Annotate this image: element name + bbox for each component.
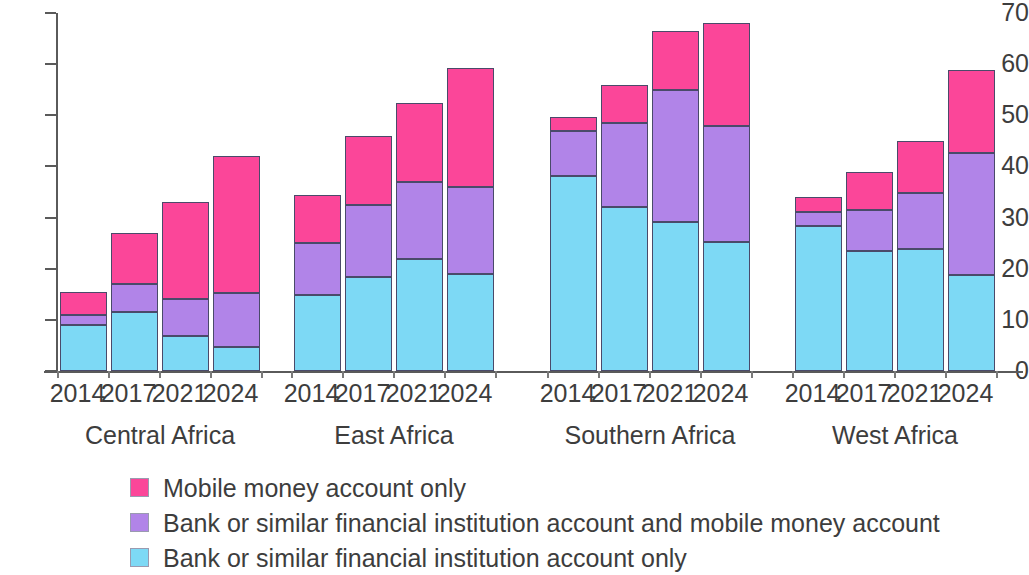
bar-segment-pink — [396, 103, 443, 182]
x-axis-tick — [495, 371, 497, 378]
x-axis-tick — [57, 371, 59, 378]
chart-legend: Mobile money account onlyBank or similar… — [130, 470, 940, 575]
bar-segment-pink — [213, 156, 260, 293]
bar-segment-purple — [111, 284, 158, 312]
x-axis-tick — [108, 371, 110, 378]
bar-segment-blue — [550, 176, 597, 371]
legend-item[interactable]: Bank or similar financial institution ac… — [130, 505, 940, 540]
bar-central-africa-2014 — [60, 292, 107, 371]
bar-segment-purple — [162, 299, 209, 336]
plot-area — [57, 13, 1023, 371]
x-axis-tick — [547, 371, 549, 378]
x-axis-tick — [894, 371, 896, 378]
bar-segment-purple — [60, 315, 107, 325]
legend-swatch-purple — [130, 513, 149, 532]
legend-swatch-pink — [130, 478, 149, 497]
bar-segment-blue — [345, 277, 392, 371]
bar-southern-africa-2014 — [550, 117, 597, 371]
x-axis-year-label: 2024 — [936, 379, 996, 407]
y-axis-tick — [45, 217, 56, 219]
y-axis-tick — [45, 12, 56, 14]
bar-segment-pink — [111, 233, 158, 284]
legend-item[interactable]: Bank or similar financial institution ac… — [130, 540, 940, 575]
bar-central-africa-2021 — [162, 202, 209, 371]
bar-segment-pink — [550, 117, 597, 130]
bar-segment-purple — [396, 182, 443, 259]
x-axis-group-label: East Africa — [244, 420, 544, 450]
bar-segment-pink — [601, 85, 648, 123]
x-axis-tick — [843, 371, 845, 378]
bar-segment-purple — [703, 126, 750, 242]
y-axis-tick — [45, 114, 56, 116]
x-axis-tick — [159, 371, 161, 378]
x-axis-tick — [291, 371, 293, 378]
legend-item[interactable]: Mobile money account only — [130, 470, 940, 505]
x-axis-line — [44, 371, 1023, 373]
x-axis-tick — [792, 371, 794, 378]
bar-segment-pink — [897, 141, 944, 193]
bar-segment-pink — [652, 31, 699, 90]
legend-swatch-blue — [130, 548, 149, 567]
bar-central-africa-2024 — [213, 156, 260, 371]
bar-west-africa-2024 — [948, 70, 995, 371]
bar-segment-blue — [213, 347, 260, 371]
bar-segment-purple — [213, 293, 260, 348]
bar-central-africa-2017 — [111, 233, 158, 371]
bar-segment-purple — [897, 193, 944, 249]
bar-segment-pink — [795, 197, 842, 212]
bar-segment-purple — [846, 210, 893, 251]
x-axis-tick — [945, 371, 947, 378]
bar-segment-blue — [396, 259, 443, 371]
bar-east-africa-2021 — [396, 103, 443, 372]
x-axis-tick — [444, 371, 446, 378]
bar-segment-blue — [294, 295, 341, 371]
x-axis-tick — [342, 371, 344, 378]
x-axis-tick — [393, 371, 395, 378]
bar-southern-africa-2024 — [703, 23, 750, 371]
bar-east-africa-2014 — [294, 195, 341, 371]
stacked-bar-chart: 010203040506070 2014201720212024Central … — [0, 0, 1029, 575]
legend-label: Bank or similar financial institution ac… — [163, 544, 687, 572]
bar-west-africa-2014 — [795, 197, 842, 371]
y-axis-tick — [45, 165, 56, 167]
bar-segment-purple — [652, 90, 699, 222]
x-axis-tick — [649, 371, 651, 378]
x-axis-tick — [751, 371, 753, 378]
bar-segment-pink — [703, 23, 750, 125]
bar-southern-africa-2017 — [601, 85, 648, 371]
y-axis-tick — [45, 319, 56, 321]
x-axis-year-label: 2024 — [435, 379, 495, 407]
x-axis-tick — [598, 371, 600, 378]
x-axis-tick — [210, 371, 212, 378]
bar-segment-blue — [652, 222, 699, 371]
bar-segment-blue — [447, 274, 494, 371]
bar-segment-pink — [948, 70, 995, 152]
x-axis-tick — [996, 371, 998, 378]
bar-segment-blue — [703, 242, 750, 371]
bar-segment-purple — [948, 153, 995, 276]
x-axis-group-label: West Africa — [745, 420, 1029, 450]
bar-east-africa-2017 — [345, 136, 392, 371]
bar-segment-blue — [601, 207, 648, 371]
bar-segment-blue — [60, 325, 107, 371]
legend-label: Bank or similar financial institution ac… — [163, 509, 940, 537]
bar-segment-purple — [795, 212, 842, 226]
bar-segment-pink — [162, 202, 209, 299]
bar-segment-blue — [948, 275, 995, 371]
bar-segment-blue — [897, 249, 944, 371]
bar-west-africa-2021 — [897, 141, 944, 371]
x-axis-year-label: 2024 — [201, 379, 261, 407]
bar-segment-blue — [846, 251, 893, 371]
bar-segment-pink — [60, 292, 107, 315]
x-axis-tick — [700, 371, 702, 378]
x-axis-year-label: 2024 — [691, 379, 751, 407]
x-axis-tick — [261, 371, 263, 378]
bar-west-africa-2017 — [846, 172, 893, 371]
bar-segment-purple — [601, 123, 648, 207]
bar-segment-pink — [846, 172, 893, 210]
bar-segment-purple — [447, 187, 494, 274]
y-axis-tick — [45, 63, 56, 65]
y-axis-tick — [45, 268, 56, 270]
bar-segment-pink — [447, 68, 494, 187]
bar-segment-pink — [345, 136, 392, 205]
